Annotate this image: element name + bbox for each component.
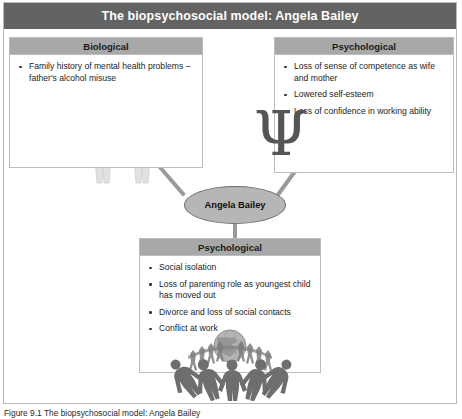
biopsychosocial-figure: The biopsychosocial model: Angela Bailey… — [3, 2, 457, 404]
psi-glyph: Ψ — [254, 97, 308, 170]
figure-caption: Figure 9.1 The biopsychosocial model: An… — [4, 408, 444, 419]
panel-biological: Biological Family history of mental heal… — [9, 37, 203, 168]
figure-title-bar: The biopsychosocial model: Angela Bailey — [4, 3, 456, 29]
panel-psychological-bottom-list: Social isolation Loss of parenting role … — [146, 262, 314, 335]
list-item: Family history of mental health problems… — [16, 61, 196, 84]
list-item: Divorce and loss of social contacts — [146, 307, 314, 319]
psi-symbol-icon: Ψ — [250, 98, 312, 170]
list-item: Loss of parenting role as youngest child… — [146, 279, 314, 302]
panel-biological-header: Biological — [10, 38, 202, 55]
list-item: Loss of sense of competence as wife and … — [281, 61, 447, 84]
list-item: Social isolation — [146, 262, 314, 274]
panel-psychological-bottom-header: Psychological — [140, 239, 320, 256]
panel-biological-list: Family history of mental health problems… — [16, 61, 196, 84]
panel-biological-body: Family history of mental health problems… — [10, 55, 202, 167]
central-node-angela-bailey: Angela Bailey — [184, 186, 286, 224]
panel-psychological-top-header: Psychological — [275, 38, 453, 55]
central-node-label: Angela Bailey — [205, 200, 266, 210]
figure-title: The biopsychosocial model: Angela Bailey — [101, 9, 358, 23]
globe-with-people-ring-icon — [154, 329, 306, 401]
